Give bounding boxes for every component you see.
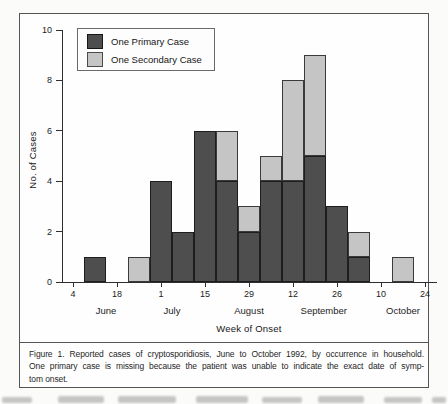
- x-month-label: September: [292, 305, 356, 316]
- bar-segment-secondary: [216, 131, 238, 181]
- x-month-label: August: [217, 305, 281, 316]
- y-tick: [56, 130, 63, 131]
- x-month-label: July: [140, 305, 204, 316]
- bar-segment-primary: [194, 131, 216, 282]
- bar-segment-primary: [216, 181, 238, 282]
- x-tick: [249, 283, 250, 287]
- page-text-artifact: [432, 397, 446, 403]
- x-tick: [337, 283, 338, 287]
- x-axis-label: Week of Onset: [62, 323, 436, 334]
- bar-segment-secondary: [128, 257, 150, 282]
- bar-segment-primary: [238, 232, 260, 282]
- x-tick: [381, 283, 382, 287]
- caption-line: Figure 1. Reported cases of cryptosporid…: [29, 348, 424, 360]
- x-tick-label: 24: [413, 289, 437, 300]
- x-tick-label: 29: [237, 289, 261, 300]
- bar-segment-primary: [172, 232, 194, 282]
- y-tick: [56, 30, 63, 31]
- bar-segment-secondary: [392, 257, 414, 282]
- x-tick: [161, 283, 162, 287]
- bar-segment-secondary: [304, 55, 326, 156]
- page-text-artifact: [58, 396, 104, 403]
- x-tick-label: 4: [61, 289, 85, 300]
- y-tick: [56, 231, 63, 232]
- plot-area: 02468104181152912261024JuneJulyAugustSep…: [62, 30, 437, 283]
- bar-segment-primary: [348, 257, 370, 282]
- y-tick-label: 4: [31, 176, 52, 187]
- figure-box: One Primary Case One Secondary Case No. …: [19, 13, 429, 388]
- y-tick: [56, 80, 63, 81]
- x-tick-label: 26: [325, 289, 349, 300]
- bar-segment-primary: [326, 206, 348, 282]
- x-month-label: October: [371, 305, 435, 316]
- bar-segment-secondary: [238, 206, 260, 231]
- x-tick-label: 1: [149, 289, 173, 300]
- y-tick: [56, 181, 63, 182]
- y-tick-label: 6: [31, 126, 52, 137]
- figure-caption: Figure 1. Reported cases of cryptosporid…: [29, 348, 424, 385]
- page-text-artifact: [196, 396, 248, 403]
- caption-divider: [20, 342, 428, 343]
- x-tick-label: 12: [281, 289, 305, 300]
- y-tick: [56, 282, 63, 283]
- x-tick: [205, 283, 206, 287]
- y-tick-label: 0: [31, 277, 52, 288]
- bar-segment-primary: [260, 181, 282, 282]
- bar-segment-secondary: [348, 232, 370, 257]
- x-tick: [117, 283, 118, 287]
- x-month-label: June: [74, 305, 138, 316]
- page-text-artifact: [318, 396, 364, 403]
- bar-segment-secondary: [260, 156, 282, 181]
- bar-segment-primary: [282, 181, 304, 282]
- page-text-artifact: [2, 397, 32, 403]
- bar-segment-primary: [304, 156, 326, 282]
- bar-segment-secondary: [282, 80, 304, 181]
- y-tick-label: 2: [31, 227, 52, 238]
- x-tick: [425, 283, 426, 287]
- y-tick-label: 8: [31, 75, 52, 86]
- bar-segment-primary: [150, 181, 172, 282]
- x-tick-label: 10: [369, 289, 393, 300]
- caption-line: One primary case is missing because the …: [29, 360, 424, 372]
- x-tick-label: 18: [105, 289, 129, 300]
- x-tick: [73, 283, 74, 287]
- page-text-artifact: [118, 396, 176, 403]
- y-tick-label: 10: [31, 25, 52, 36]
- page-text-artifact: [384, 397, 422, 403]
- x-tick-label: 15: [193, 289, 217, 300]
- x-tick: [293, 283, 294, 287]
- page-text-artifact: [262, 397, 302, 403]
- caption-line: tom onset.: [29, 373, 424, 385]
- bar-segment-primary: [84, 257, 106, 282]
